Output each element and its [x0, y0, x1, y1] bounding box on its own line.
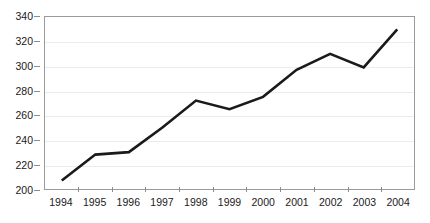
y-axis-tick-label: 280 [15, 85, 33, 96]
x-axis-tick-label: 2001 [285, 197, 308, 208]
y-axis-tick-mark [34, 140, 40, 141]
x-axis-tick-label: 1999 [218, 197, 241, 208]
x-axis-tick-label: 1995 [83, 197, 106, 208]
x-axis-tick-label: 1997 [150, 197, 173, 208]
plot-area [44, 16, 415, 190]
x-axis-tick-label: 2003 [353, 197, 376, 208]
y-axis-tick-label: 300 [15, 60, 33, 71]
x-axis-tick-mark [213, 187, 214, 192]
y-axis-tick-label: 320 [15, 36, 33, 47]
series-polyline [62, 29, 397, 180]
x-axis-tick-mark [381, 187, 382, 192]
y-axis-tick-label: 260 [15, 110, 33, 121]
y-axis-tick-mark [34, 115, 40, 116]
x-axis-tick-label: 2000 [252, 197, 275, 208]
y-axis-tick-label: 200 [15, 185, 33, 196]
x-axis-tick-mark [246, 187, 247, 192]
x-axis-tick-label: 2002 [319, 197, 342, 208]
x-axis-tick-mark [348, 187, 349, 192]
y-axis-tick-mark [34, 41, 40, 42]
line-chart-figure: 200220240260280300320340 199419951996199… [0, 0, 430, 223]
y-axis-tick-label: 340 [15, 11, 33, 22]
y-axis: 200220240260280300320340 [0, 0, 44, 223]
y-axis-tick-mark [34, 91, 40, 92]
x-axis-tick-mark [78, 187, 79, 192]
y-axis-tick-mark [34, 190, 40, 191]
y-axis-tick-mark [34, 165, 40, 166]
x-axis-tick-mark [314, 187, 315, 192]
y-axis-tick-mark [34, 16, 40, 17]
data-series-line [45, 17, 414, 189]
x-axis-tick-mark [112, 187, 113, 192]
x-axis-tick-mark [280, 187, 281, 192]
y-axis-tick-label: 220 [15, 160, 33, 171]
x-axis: 1994199519961997199819992000200120022003… [44, 193, 415, 221]
x-axis-tick-label: 1994 [49, 197, 72, 208]
x-axis-tick-label: 1998 [184, 197, 207, 208]
x-axis-tick-mark [179, 187, 180, 192]
x-axis-tick-mark [145, 187, 146, 192]
x-axis-tick-label: 1996 [117, 197, 140, 208]
y-axis-tick-mark [34, 66, 40, 67]
x-axis-tick-label: 2004 [386, 197, 409, 208]
y-axis-tick-label: 240 [15, 135, 33, 146]
